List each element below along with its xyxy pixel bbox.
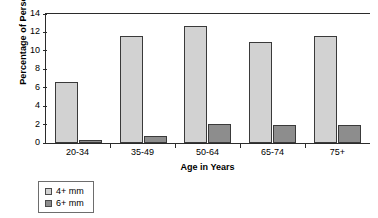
y-tick-label: 0 [35, 137, 40, 147]
bar-50-64-4-mm[interactable] [184, 26, 207, 143]
bar-group-75+ [305, 14, 370, 143]
x-axis-tick-labels: 20-3435-4950-6465-7475+ [45, 147, 370, 157]
legend-item-4mm[interactable]: 4+ mm [45, 185, 84, 197]
x-tick-label-20-34: 20-34 [45, 147, 110, 157]
legend-label: 4+ mm [56, 186, 84, 196]
x-tick-label-50-64: 50-64 [175, 147, 240, 157]
legend-swatch-icon [45, 188, 52, 195]
x-axis-title: Age in Years [45, 162, 370, 172]
plot-area: 0 2 4 6 8 10 12 14 [45, 13, 370, 144]
bar-group-65-74 [240, 14, 305, 143]
bar-35-49-4-mm[interactable] [120, 36, 143, 143]
bar-chart: Percentage of Persons 0 2 4 6 8 10 12 14… [0, 0, 378, 218]
bar-group-50-64 [176, 14, 241, 143]
y-tick-label: 2 [35, 119, 40, 129]
y-tick-label: 6 [35, 82, 40, 92]
bar-65-74-4-mm[interactable] [249, 42, 272, 143]
y-tick-label: 10 [30, 45, 40, 55]
bar-20-34-6-mm[interactable] [79, 140, 102, 143]
bar-50-64-6-mm[interactable] [208, 124, 231, 143]
bar-75+-6-mm[interactable] [338, 125, 361, 143]
bar-group-20-34 [46, 14, 111, 143]
y-tick-label: 12 [30, 26, 40, 36]
y-tick-label: 4 [35, 100, 40, 110]
bar-65-74-6-mm[interactable] [273, 125, 296, 143]
legend-item-6mm[interactable]: 6+ mm [45, 197, 84, 209]
legend-label: 6+ mm [56, 198, 84, 208]
bar-35-49-6-mm[interactable] [144, 136, 167, 143]
legend-swatch-icon [45, 200, 52, 207]
y-tick-label: 8 [35, 63, 40, 73]
bar-group-35-49 [111, 14, 176, 143]
x-tick-label-75+: 75+ [305, 147, 370, 157]
bar-groups [46, 14, 370, 143]
y-tick-label: 14 [30, 8, 40, 18]
x-tick-label-65-74: 65-74 [240, 147, 305, 157]
chart-legend: 4+ mm 6+ mm [38, 181, 94, 213]
y-axis-title: Percentage of Persons [18, 0, 28, 105]
bar-75+-4-mm[interactable] [314, 36, 337, 143]
bar-20-34-4-mm[interactable] [55, 82, 78, 143]
x-tick-label-35-49: 35-49 [110, 147, 175, 157]
